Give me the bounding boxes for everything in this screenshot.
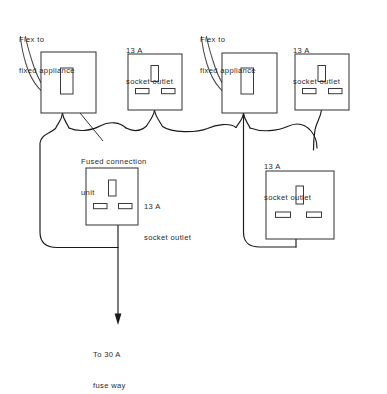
wire-fcu-right-tail-b <box>244 113 251 128</box>
label-fcu-line2: unit <box>81 188 147 198</box>
label-socket-middle-line2: socket outlet <box>144 233 191 243</box>
label-fused-connection-unit: Fused connection unit <box>81 137 147 219</box>
label-flex-right: Flex to fixed appliance <box>200 15 256 97</box>
wire-fcu-left-tail-a <box>56 113 63 129</box>
wire-socket-tl-tail-b <box>155 110 163 127</box>
label-flex-left-line2: fixed appliance <box>19 66 75 76</box>
label-flex-left: Flex to fixed appliance <box>19 15 75 97</box>
label-socket-right-line2: socket outlet <box>264 193 311 203</box>
label-socket-right-line1: 13 A <box>264 162 311 172</box>
label-socket-top-left: 13 A socket outlet <box>126 26 173 108</box>
feed-arrow-head <box>115 314 122 326</box>
label-flex-right-line2: fixed appliance <box>200 66 256 76</box>
label-socket-top-left-line2: socket outlet <box>126 77 173 87</box>
label-feed-line1: To 30 A <box>93 350 126 360</box>
wire-ring-fcu-left-to-socket-tl <box>69 123 126 131</box>
label-feed-line2: fuse way <box>93 381 126 391</box>
label-flex-left-line1: Flex to <box>19 35 75 45</box>
wire-fcu-left-tail-b <box>63 113 70 128</box>
label-flex-right-line1: Flex to <box>200 35 256 45</box>
label-feed-to-fuse-way: To 30 A fuse way <box>93 330 126 394</box>
wire-socket-tr-tail <box>314 110 322 150</box>
label-fcu-line1: Fused connection <box>81 157 147 167</box>
label-socket-top-right-line1: 13 A <box>293 46 340 56</box>
label-socket-right: 13 A socket outlet <box>264 142 311 224</box>
wire-ring-socket-tl-to-fcu-right <box>163 125 237 132</box>
label-socket-top-right-line2: socket outlet <box>293 77 340 87</box>
label-socket-top-left-line1: 13 A <box>126 46 173 56</box>
label-socket-middle: 13 A socket outlet <box>144 182 191 264</box>
wire-socket-tl-tail-a <box>126 110 155 130</box>
wire-fcu-right-tail-a <box>236 113 244 128</box>
label-socket-top-right: 13 A socket outlet <box>293 26 340 108</box>
label-socket-middle-line1: 13 A <box>144 202 191 212</box>
